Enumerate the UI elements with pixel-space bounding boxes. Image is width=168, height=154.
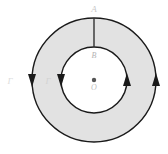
- center-point-dot: [92, 78, 96, 82]
- annulus-diagram-figure: A B O Γ Γ: [0, 0, 168, 154]
- annulus-diagram-canvas: A B O Γ Γ: [0, 0, 168, 154]
- label-gamma-outer: Γ: [6, 76, 13, 86]
- label-point-b: B: [92, 51, 97, 60]
- label-gamma-inner: Γ: [44, 76, 51, 86]
- label-point-o: O: [91, 83, 97, 92]
- label-point-a: A: [90, 4, 97, 14]
